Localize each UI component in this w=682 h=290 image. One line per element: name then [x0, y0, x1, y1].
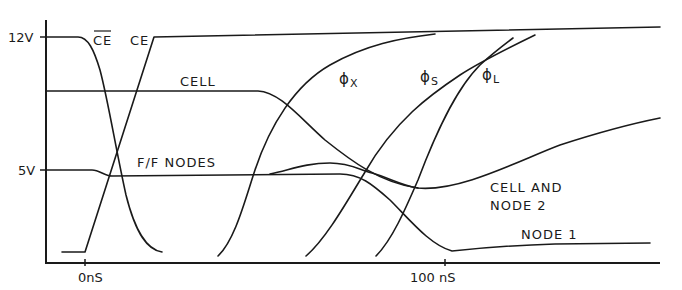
svg-text:ϕ: ϕ [420, 68, 430, 86]
curve-phi-x [218, 34, 435, 256]
label-phi-s: ϕ S [420, 68, 438, 88]
svg-text:ϕ: ϕ [482, 66, 492, 84]
label-ce: CE [130, 33, 149, 48]
x-label-100ns: 100 nS [410, 270, 455, 285]
label-phi-x: ϕ X [339, 70, 358, 90]
curve-cell [46, 91, 660, 188]
curve-ce-bar [46, 37, 162, 252]
label-phi-l: ϕ L [482, 66, 500, 86]
label-node1: NODE 1 [521, 227, 578, 242]
label-cell-and-node2-line2: NODE 2 [490, 198, 547, 213]
x-label-0ns: 0nS [78, 270, 103, 285]
label-ce-bar: CE [93, 33, 112, 48]
y-label-5v: 5V [18, 163, 35, 178]
timing-diagram: 12V 5V 0nS 100 nS CE CE CELL F/F NODES ϕ… [0, 0, 682, 290]
svg-text:S: S [431, 75, 438, 88]
y-label-12v: 12V [8, 30, 34, 45]
label-cell: CELL [180, 74, 216, 89]
curve-ce [62, 27, 660, 252]
svg-text:X: X [350, 77, 358, 90]
curve-phi-l [376, 38, 513, 256]
svg-text:L: L [493, 73, 500, 86]
label-cell-and-node2-line1: CELL AND [490, 180, 563, 195]
svg-text:ϕ: ϕ [339, 70, 349, 88]
label-ff-nodes: F/F NODES [137, 155, 216, 170]
curve-cell-and-node2 [270, 163, 418, 188]
